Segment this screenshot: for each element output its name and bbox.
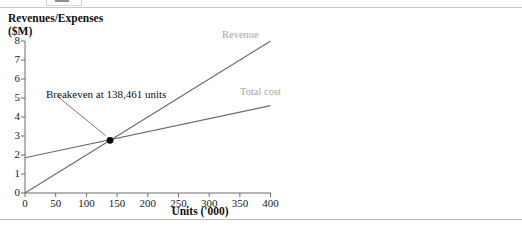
y-tick-label-1: 1 bbox=[2, 167, 20, 179]
y-tick-label-6: 6 bbox=[2, 72, 20, 84]
annotation-leader-line bbox=[57, 96, 106, 136]
breakeven-annotation-label: Breakeven at 138,461 units bbox=[46, 88, 166, 100]
y-tick-label-4: 4 bbox=[2, 110, 20, 122]
series-line-total-cost bbox=[25, 106, 271, 158]
y-tick-label-7: 7 bbox=[2, 53, 20, 65]
figure-page: Revenues/Expenses ($M) bbox=[0, 0, 522, 228]
breakeven-marker bbox=[107, 137, 114, 144]
y-tick-label-2: 2 bbox=[2, 148, 20, 160]
y-axis-ticks bbox=[21, 41, 25, 193]
y-tick-label-8: 8 bbox=[2, 34, 20, 46]
series-line-revenue bbox=[25, 41, 271, 193]
chart-plot-area bbox=[0, 0, 522, 228]
series-label-revenue: Revenue bbox=[222, 29, 259, 40]
bottom-divider bbox=[0, 219, 522, 220]
y-tick-label-5: 5 bbox=[2, 91, 20, 103]
series-label-total-cost: Total cost bbox=[240, 86, 281, 97]
y-tick-label-3: 3 bbox=[2, 129, 20, 141]
x-axis-title: Units ('000) bbox=[0, 205, 400, 217]
